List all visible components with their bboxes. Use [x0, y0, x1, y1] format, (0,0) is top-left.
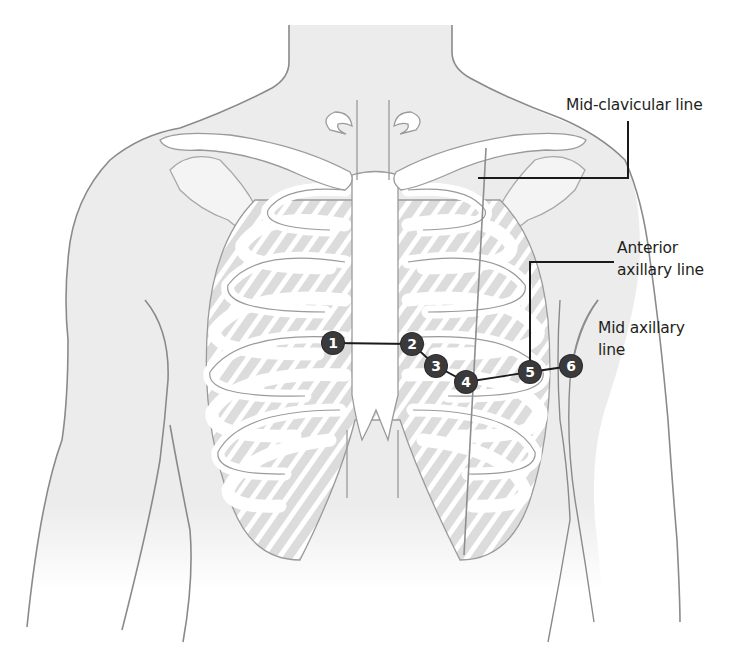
electrode-v1: 1: [322, 332, 344, 354]
electrode-v5: 5: [519, 361, 541, 383]
electrode-v6: 6: [560, 355, 582, 377]
electrode-v4: 4: [455, 371, 477, 393]
label-mid-clavicular-line: Mid-clavicular line: [566, 95, 703, 115]
chest-diagram: Mid-clavicular line Anterior axillary li…: [0, 0, 753, 666]
label-anterior-axillary-line-1: Anterior: [617, 238, 678, 258]
label-anterior-axillary-line-2: axillary line: [617, 260, 704, 280]
electrode-v2: 2: [401, 333, 423, 355]
label-mid-axillary-line-2: line: [598, 340, 625, 360]
label-mid-axillary-line-1: Mid axillary: [598, 318, 685, 338]
electrode-v3: 3: [425, 355, 447, 377]
